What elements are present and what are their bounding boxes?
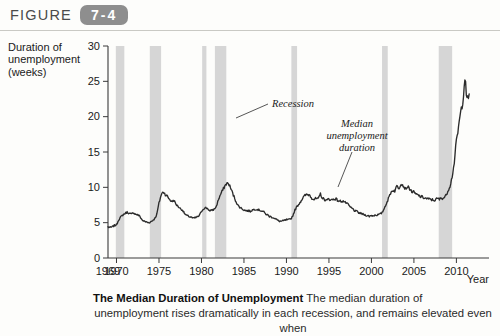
- x-tick-label: 1970: [104, 265, 128, 277]
- recession-band: [439, 46, 452, 258]
- series-annotation-line3: duration: [339, 142, 375, 153]
- recession-band: [291, 46, 297, 258]
- recession-bands-group: [116, 46, 452, 258]
- recession-band: [202, 46, 206, 258]
- y-tick-label: 20: [88, 110, 100, 122]
- recession-leader-line: [236, 104, 268, 118]
- x-tick-label: 2000: [359, 265, 383, 277]
- x-tick-label: 2005: [402, 265, 426, 277]
- y-tick-label: 15: [88, 146, 100, 158]
- y-tick-label: 30: [88, 40, 100, 52]
- caption-title: The Median Duration of Unemployment: [93, 292, 303, 304]
- recession-band: [116, 46, 124, 258]
- series-annotation-line2: unemployment: [326, 130, 388, 141]
- series-leader-line: [338, 152, 352, 187]
- x-tick-label: 1975: [147, 265, 171, 277]
- y-tick-label: 25: [88, 75, 100, 87]
- x-tick-label: 1985: [232, 265, 256, 277]
- x-tick-label: 2010: [444, 265, 468, 277]
- y-tick-label: 0: [94, 252, 100, 264]
- tick-labels-group: 0510152025301969197019751980198519901995…: [88, 40, 469, 277]
- x-tick-label: 1990: [274, 265, 298, 277]
- caption-body: The median duration of: [303, 292, 422, 304]
- caption-body-line2: unemployment rises dramatically in each …: [93, 306, 493, 336]
- y-tick-label: 5: [94, 216, 100, 228]
- recession-band: [150, 46, 161, 258]
- series-annotation-line1: Median: [340, 118, 373, 129]
- x-axis-title: Year: [467, 273, 490, 285]
- recession-band: [215, 46, 226, 258]
- recession-annotation: Recession: [271, 98, 314, 109]
- recession-band: [382, 46, 388, 258]
- figure-caption: The Median Duration of Unemployment The …: [93, 291, 493, 336]
- x-tick-label: 1980: [189, 265, 213, 277]
- x-tick-label: 1995: [317, 265, 341, 277]
- y-tick-label: 10: [88, 181, 100, 193]
